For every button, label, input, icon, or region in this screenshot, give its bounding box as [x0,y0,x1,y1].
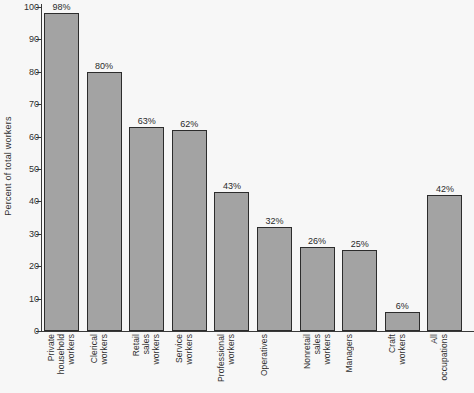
y-tick-label: 90 [29,34,39,44]
y-tick: 100 [41,7,46,8]
x-category-label-line: Operatives [259,334,269,376]
x-category-label-line: sales [141,334,151,354]
bar[interactable]: 80% [87,72,122,331]
bar-value-label: 26% [308,236,326,246]
y-tick-label: 70 [29,99,39,109]
bar-value-label: 43% [223,181,241,191]
bar[interactable]: 63% [129,127,164,331]
y-axis-title: Percent of total workers [0,0,16,332]
bar[interactable]: 62% [172,130,207,331]
bar-value-label: 6% [396,301,409,311]
bar[interactable]: 32% [257,227,292,331]
x-category-label-line: All [429,334,439,344]
x-category-label-line: Retail [131,334,141,356]
bar-value-label: 32% [265,216,283,226]
y-axis-title-text: Percent of total workers [3,116,13,215]
y-axis-line [41,4,42,332]
x-category-label-line: workers [99,334,109,364]
bar[interactable]: 6% [385,312,420,331]
plot-area: 0102030405060708090100 98%80%63%62%43%32… [41,0,474,332]
bar-value-label: 98% [52,2,70,12]
y-tick-label: 50 [29,164,39,174]
bar-value-label: 63% [138,116,156,126]
bar-chart: Percent of total workers 010203040506070… [0,0,474,393]
y-tick-label: 20 [29,261,39,271]
x-axis-line [41,331,474,332]
bar[interactable]: 42% [427,195,462,331]
bar-value-label: 25% [351,239,369,249]
bar[interactable]: 98% [44,13,79,331]
bar-value-label: 42% [436,184,454,194]
bar-value-label: 62% [180,119,198,129]
x-category-label-line: workers [226,334,236,364]
bar[interactable]: 26% [300,247,335,331]
y-tick-label: 40 [29,196,39,206]
x-category-label-line: workers [66,334,76,364]
y-tick-label: 60 [29,132,39,142]
x-category-label-line: Nonretail [302,334,312,369]
bar-value-label: 80% [95,61,113,71]
x-category-label-line: Service [174,334,184,363]
x-category-label-line: sales [312,334,322,354]
x-category-label-line: workers [397,334,407,364]
y-tick: 0 [41,331,46,332]
x-category-label-line: Managers [344,334,354,373]
bar[interactable]: 25% [342,250,377,331]
x-category-label-line: workers [184,334,194,364]
x-category-label-line: occupations [439,334,449,380]
y-tick-label: 80 [29,67,39,77]
x-category-label-line: Private [46,334,56,361]
bar[interactable]: 43% [214,192,249,331]
y-tick-label: 30 [29,229,39,239]
x-category-label-line: household [56,334,66,374]
x-axis-category-labels: PrivatehouseholdworkersClericalworkersRe… [41,334,474,393]
x-category-label-line: Clerical [89,334,99,363]
y-tick-label: 0 [34,326,39,336]
x-category-label-line: Craft [387,334,397,353]
x-category-label-line: workers [322,334,332,364]
y-tick-label: 10 [29,294,39,304]
x-category-label-line: Professional [216,334,226,382]
y-tick-label: 100 [24,2,39,12]
x-category-label-line: workers [151,334,161,364]
